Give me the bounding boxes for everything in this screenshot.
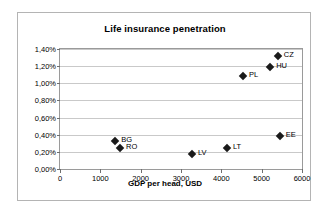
- diamond-marker-icon: [276, 131, 284, 139]
- y-tick-mark: [57, 83, 60, 84]
- data-point-label: LV: [198, 148, 207, 157]
- y-tick-mark: [57, 100, 60, 101]
- data-point-label: PL: [249, 70, 258, 79]
- diamond-marker-icon: [274, 52, 282, 60]
- x-tick-mark: [302, 169, 303, 173]
- y-tick-mark: [57, 118, 60, 119]
- y-tick-label: 0,80%: [35, 96, 56, 105]
- diamond-marker-icon: [223, 143, 231, 151]
- y-tick-label: 1,00%: [35, 79, 56, 88]
- y-tick-label: 0,60%: [35, 113, 56, 122]
- gridline: [60, 100, 302, 101]
- x-tick-mark: [181, 169, 182, 173]
- diamond-marker-icon: [188, 149, 196, 157]
- plot-area: 0,00%0,20%0,40%0,60%0,80%1,00%1,20%1,40%…: [59, 48, 303, 170]
- gridline: [60, 135, 302, 136]
- gridline: [60, 118, 302, 119]
- x-tick-mark: [60, 169, 61, 173]
- data-point-label: HU: [276, 61, 287, 70]
- diamond-marker-icon: [266, 63, 274, 71]
- y-tick-label: 1,40%: [35, 45, 56, 54]
- x-tick-mark: [262, 169, 263, 173]
- data-point-label: EE: [286, 130, 296, 139]
- x-tick-mark: [141, 169, 142, 173]
- gridline: [60, 49, 302, 50]
- y-tick-mark: [57, 135, 60, 136]
- x-axis-title: GDP per head, USD: [18, 179, 312, 188]
- y-tick-label: 0,00%: [35, 165, 56, 174]
- y-tick-label: 0,20%: [35, 147, 56, 156]
- chart-figure: Life insurance penetration 0,00%0,20%0,4…: [17, 12, 311, 201]
- y-tick-mark: [57, 66, 60, 67]
- y-tick-label: 1,20%: [35, 62, 56, 71]
- data-point-label: RO: [126, 142, 137, 151]
- x-tick-mark: [221, 169, 222, 173]
- diamond-marker-icon: [116, 143, 124, 151]
- y-tick-label: 0,40%: [35, 130, 56, 139]
- x-tick-mark: [100, 169, 101, 173]
- y-tick-mark: [57, 49, 60, 50]
- gridline: [60, 152, 302, 153]
- y-tick-mark: [57, 152, 60, 153]
- gridline: [60, 83, 302, 84]
- data-point-label: CZ: [284, 50, 294, 59]
- chart-title: Life insurance penetration: [18, 23, 312, 34]
- diamond-marker-icon: [239, 71, 247, 79]
- data-point-label: LT: [233, 142, 241, 151]
